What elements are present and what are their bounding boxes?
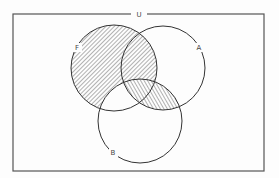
set-f-label: F — [75, 44, 79, 52]
venn-diagram-canvas: U F A B — [0, 0, 279, 178]
set-a-label: A — [197, 44, 202, 52]
venn-diagram: U F A B — [0, 0, 279, 178]
set-b-label: B — [111, 149, 116, 157]
universe-label: U — [136, 11, 141, 19]
